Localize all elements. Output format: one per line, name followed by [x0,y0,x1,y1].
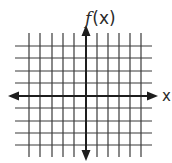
x-axis-right-arrow-icon [147,92,158,101]
y-axis-label-arg: (x) [92,8,115,28]
x-axis-label: x [162,87,171,105]
x-axis-left-arrow-icon [8,92,19,101]
coordinate-grid-diagram: f(x) x [0,0,172,163]
y-axis-down-arrow-icon [82,150,91,161]
y-axis-label: f(x) [83,8,116,28]
